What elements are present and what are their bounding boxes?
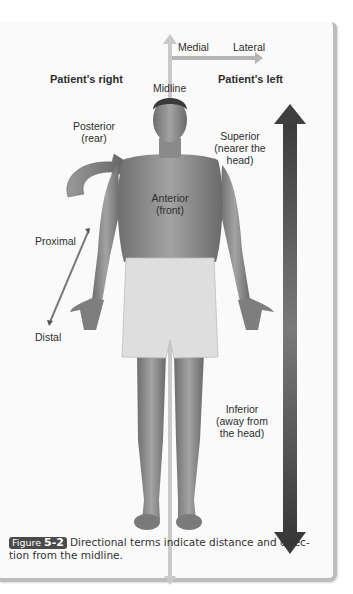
patients-left-label: Patient's left [218, 73, 283, 85]
midline-label: Midline [153, 82, 186, 94]
lateral-label: Lateral [233, 41, 265, 53]
patients-right-label: Patient's right [50, 73, 123, 85]
proximal-label: Proximal [35, 235, 76, 247]
anterior-label: Anterior (front) [147, 192, 193, 216]
medial-lateral-arrow [172, 52, 263, 64]
superior-inferior-arrow [274, 104, 306, 554]
figure-caption: Figure 5-2Directional terms indicate dis… [9, 536, 329, 562]
medial-label: Medial [178, 41, 209, 53]
inferior-label: Inferior (away from the head) [214, 403, 270, 439]
figure-badge: Figure 5-2 [9, 537, 67, 549]
distal-label: Distal [35, 331, 61, 343]
posterior-label: Posterior (rear) [69, 120, 119, 144]
superior-label: Superior (nearer the head) [212, 130, 268, 166]
